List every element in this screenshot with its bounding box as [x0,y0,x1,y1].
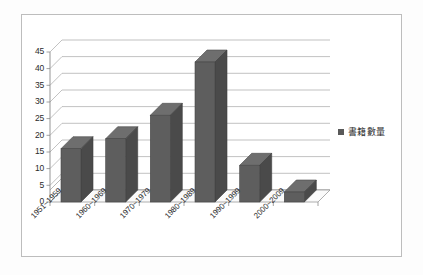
chart-page: 45 40 35 30 25 20 15 10 5 0 1951~1959 19… [0,0,423,275]
y-axis-ticks [47,52,51,202]
legend-swatch-icon [338,129,344,135]
legend-series-label: 書籍數量 [348,125,385,138]
bar-1990-1999[interactable] [240,153,272,202]
bar-1960-1969[interactable] [106,127,138,202]
y-tick-25: 25 [24,114,44,123]
chart-legend: 書籍數量 [338,125,385,138]
bar-1980-1989[interactable] [195,50,227,202]
y-tick-35: 35 [24,81,44,90]
y-tick-40: 40 [24,64,44,73]
y-tick-15: 15 [24,147,44,156]
y-tick-45: 45 [24,47,44,56]
y-tick-5: 5 [24,181,44,190]
y-tick-30: 30 [24,97,44,106]
y-tick-10: 10 [24,164,44,173]
y-tick-20: 20 [24,131,44,140]
bar-1970-1979[interactable] [150,103,182,202]
bar-1951-1959[interactable] [61,137,93,202]
